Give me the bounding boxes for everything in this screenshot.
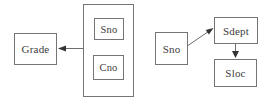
sloc-node: Sloc [214, 59, 257, 87]
dependency-diagram: Grade Sno Cno Sno Sdept Sloc [0, 0, 267, 101]
grade-label: Grade [22, 43, 50, 55]
sno-right-node: Sno [155, 32, 188, 65]
arrow-composite-to-grade [58, 46, 84, 52]
sdept-node: Sdept [214, 17, 258, 44]
sno-right-label: Sno [163, 43, 181, 55]
arrow-sno-to-sdept [188, 28, 214, 46]
grade-node: Grade [14, 33, 57, 65]
sno-left-node: Sno [94, 18, 124, 40]
sdept-label: Sdept [223, 25, 249, 37]
sno-left-label: Sno [101, 24, 118, 35]
sloc-label: Sloc [225, 67, 245, 79]
cno-label: Cno [99, 62, 117, 73]
arrow-sdept-to-sloc [232, 44, 239, 58]
cno-node: Cno [93, 55, 124, 80]
